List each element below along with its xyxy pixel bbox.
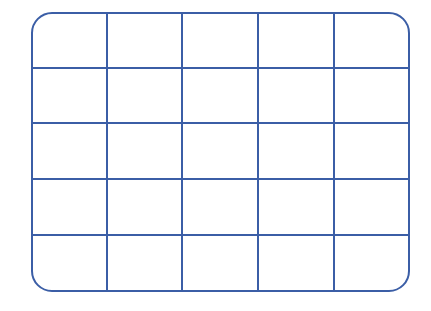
grid-frame	[32, 13, 409, 291]
grid-row-lines	[32, 68, 409, 235]
grid-diagram	[0, 0, 431, 311]
grid-column-lines	[107, 13, 334, 291]
